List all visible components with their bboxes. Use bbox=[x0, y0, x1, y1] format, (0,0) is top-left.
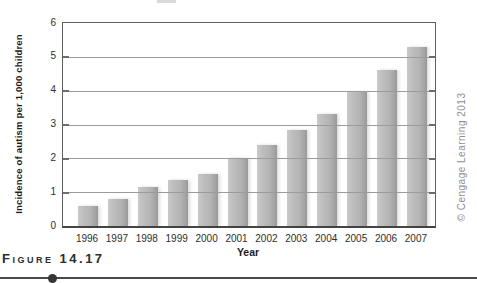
right-tick-y3 bbox=[429, 124, 435, 126]
plot-area bbox=[62, 22, 436, 228]
bar-2006 bbox=[377, 70, 397, 226]
left-tick-y4 bbox=[63, 90, 69, 92]
x-tick-label-1999: 1999 bbox=[160, 233, 194, 244]
figure-label: Figure 14.17 bbox=[2, 251, 105, 266]
right-tick-y4 bbox=[429, 90, 435, 92]
bar-2000 bbox=[198, 174, 218, 226]
left-tick-y3 bbox=[63, 124, 69, 126]
gridline-y5 bbox=[63, 57, 435, 58]
x-tick-label-2006: 2006 bbox=[369, 233, 403, 244]
y-tick-label-6: 6 bbox=[30, 17, 56, 28]
right-tick-y2 bbox=[429, 158, 435, 160]
x-tick-label-1998: 1998 bbox=[130, 233, 164, 244]
left-tick-y5 bbox=[63, 56, 69, 58]
x-tick-label-2000: 2000 bbox=[190, 233, 224, 244]
y-tick-label-1: 1 bbox=[30, 186, 56, 197]
bottom-rule bbox=[0, 277, 477, 279]
x-axis-title: Year bbox=[227, 246, 269, 258]
page-crop-artifact bbox=[157, 0, 176, 3]
right-tick-y5 bbox=[429, 56, 435, 58]
bar-1996 bbox=[78, 206, 98, 226]
y-tick-label-5: 5 bbox=[30, 50, 56, 61]
figure: Incidence of autism per 1,000 children 0… bbox=[0, 0, 477, 283]
x-tick-label-1996: 1996 bbox=[70, 233, 104, 244]
credit-text: © Cengage Learning 2013 bbox=[456, 82, 468, 232]
rule-bullet-icon bbox=[48, 274, 57, 283]
y-tick-label-4: 4 bbox=[30, 84, 56, 95]
gridline-y3 bbox=[63, 125, 435, 126]
x-tick-label-2003: 2003 bbox=[279, 233, 313, 244]
bar-2002 bbox=[257, 145, 277, 226]
y-axis-title: Incidence of autism per 1,000 children bbox=[13, 19, 27, 229]
y-tick-label-3: 3 bbox=[30, 118, 56, 129]
y-tick-label-0: 0 bbox=[30, 220, 56, 231]
left-tick-y1 bbox=[63, 192, 69, 194]
bar-1997 bbox=[108, 199, 128, 226]
gridline-y4 bbox=[63, 91, 435, 92]
x-tick-label-2005: 2005 bbox=[339, 233, 373, 244]
x-tick-label-2004: 2004 bbox=[309, 233, 343, 244]
x-tick-label-2002: 2002 bbox=[249, 233, 283, 244]
bar-2007 bbox=[407, 47, 427, 226]
left-tick-y2 bbox=[63, 158, 69, 160]
right-tick-y1 bbox=[429, 192, 435, 194]
bar-2004 bbox=[317, 114, 337, 226]
x-tick-label-2007: 2007 bbox=[399, 233, 433, 244]
y-tick-label-2: 2 bbox=[30, 152, 56, 163]
x-tick-label-2001: 2001 bbox=[220, 233, 254, 244]
gridline-y2 bbox=[63, 158, 435, 159]
gridline-y1 bbox=[63, 192, 435, 193]
bar-1999 bbox=[168, 180, 188, 226]
x-tick-label-1997: 1997 bbox=[100, 233, 134, 244]
bar-2003 bbox=[287, 130, 307, 226]
